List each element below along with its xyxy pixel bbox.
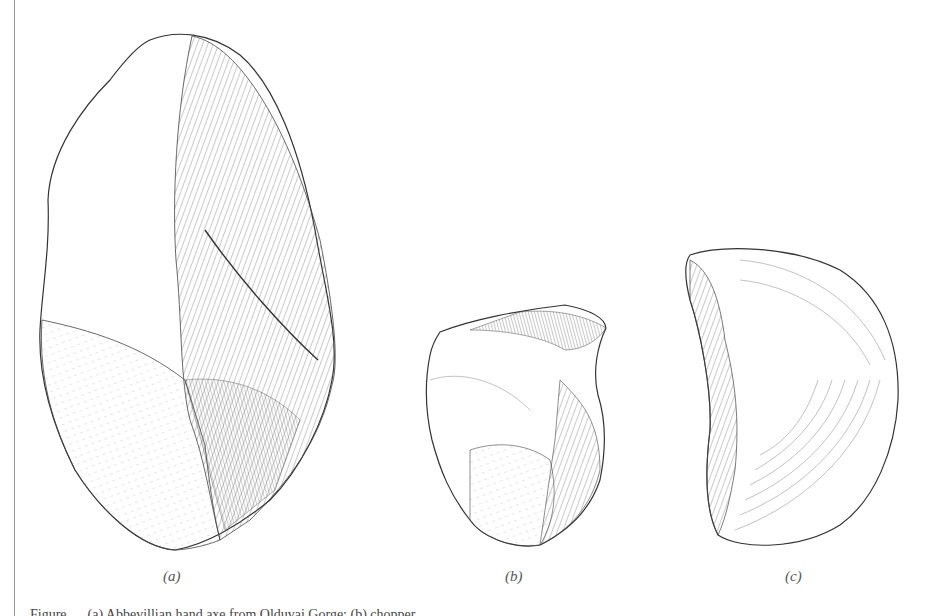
figure-caption: Figure … (a) Abbevillian hand axe from O… bbox=[30, 606, 930, 616]
stone-tools-figure: (a) (b) (c) bbox=[0, 0, 931, 590]
artifact-a-hand-axe bbox=[40, 34, 335, 550]
label-c: (c) bbox=[785, 568, 802, 585]
illustration-canvas bbox=[0, 0, 931, 590]
label-b: (b) bbox=[505, 568, 523, 585]
label-a: (a) bbox=[163, 568, 181, 585]
artifact-b-chopper bbox=[426, 305, 606, 546]
artifact-c-flake bbox=[686, 249, 898, 545]
